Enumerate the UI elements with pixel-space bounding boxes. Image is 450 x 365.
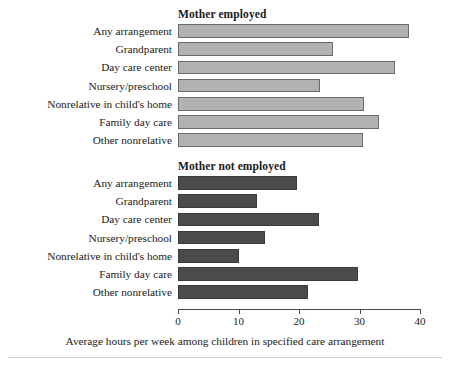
category-label: Grandparent [0,40,172,58]
bar-track [178,42,440,56]
x-axis-tick [178,309,179,314]
bar-track [178,249,440,263]
bar-nonrelative-in-childs-home-employed [178,97,364,111]
bar-day-care-center-not-employed [178,213,319,227]
bar-family-day-care-not-employed [178,267,358,281]
chart-row: Day care center [0,210,450,228]
category-label: Other nonrelative [0,131,172,149]
bar-any-arrangement-employed [178,24,409,38]
bar-track [178,267,440,281]
category-label: Nonrelative in child's home [0,247,172,265]
category-label: Day care center [0,58,172,76]
panel-title-mother-not-employed: Mother not employed [178,160,286,173]
chart-row: Family day care [0,265,450,283]
chart-row: Grandparent [0,40,450,58]
bar-any-arrangement-not-employed [178,176,297,190]
bar-rows-mother-not-employed: Any arrangement Grandparent Day care cen… [0,174,450,301]
bar-track [178,115,440,129]
chart-row: Nonrelative in child's home [0,95,450,113]
bar-track [178,133,440,147]
chart-row: Grandparent [0,192,450,210]
chart-row: Nursery/preschool [0,77,450,95]
chart-row: Any arrangement [0,22,450,40]
chart-row: Any arrangement [0,174,450,192]
bar-track [178,24,440,38]
panel-mother-employed: Mother employed Any arrangement Grandpar… [0,8,450,160]
x-axis-tick-label: 20 [284,315,314,328]
bar-rows-mother-employed: Any arrangement Grandparent Day care cen… [0,22,450,149]
chart-row: Day care center [0,58,450,76]
bar-track [178,79,440,93]
bar-other-nonrelative-employed [178,133,363,147]
bar-family-day-care-employed [178,115,379,129]
bar-track [178,285,440,299]
footer-divider [8,357,442,358]
chart-row: Other nonrelative [0,131,450,149]
bar-grandparent-employed [178,42,333,56]
bar-nursery-preschool-not-employed [178,231,265,245]
x-axis-tick [420,309,421,314]
chart-row: Nonrelative in child's home [0,247,450,265]
category-label: Family day care [0,113,172,131]
x-axis-tick [239,309,240,314]
x-axis-tick-label: 10 [224,315,254,328]
bar-nursery-preschool-employed [178,79,320,93]
x-axis-tick-label: 30 [345,315,375,328]
panel-title-mother-employed: Mother employed [178,8,266,21]
category-label: Nonrelative in child's home [0,95,172,113]
bar-track [178,231,440,245]
bar-other-nonrelative-not-employed [178,285,308,299]
bar-track [178,213,440,227]
category-label: Other nonrelative [0,283,172,301]
category-label: Any arrangement [0,174,172,192]
bar-grandparent-not-employed [178,194,257,208]
category-label: Nursery/preschool [0,229,172,247]
category-label: Any arrangement [0,22,172,40]
category-label: Family day care [0,265,172,283]
bar-track [178,176,440,190]
category-label: Day care center [0,210,172,228]
category-label: Nursery/preschool [0,77,172,95]
x-axis-tick [360,309,361,314]
chart-row: Other nonrelative [0,283,450,301]
x-axis-caption: Average hours per week among children in… [0,334,450,348]
bar-track [178,194,440,208]
bar-track [178,97,440,111]
category-label: Grandparent [0,192,172,210]
figure-chart: Mother employed Any arrangement Grandpar… [0,0,450,365]
x-axis-tick-label: 40 [405,315,435,328]
x-axis-tick [299,309,300,314]
bar-day-care-center-employed [178,61,395,75]
chart-row: Nursery/preschool [0,229,450,247]
x-axis-tick-label: 0 [163,315,193,328]
bar-nonrelative-in-childs-home-not-employed [178,249,239,263]
panel-mother-not-employed: Mother not employed Any arrangement Gran… [0,160,450,308]
bar-track [178,61,440,75]
chart-row: Family day care [0,113,450,131]
